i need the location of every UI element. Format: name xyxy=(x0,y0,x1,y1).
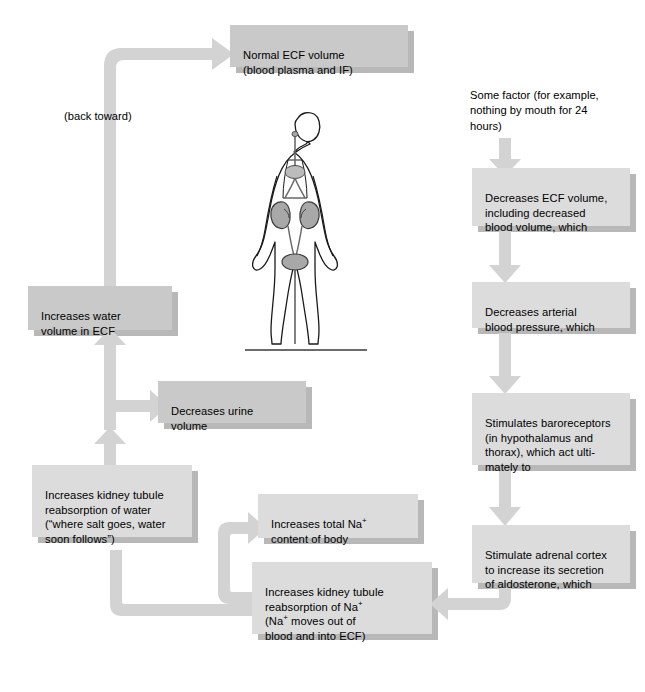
node-increases-water-reabsorption: Increases kidney tubule reabsorption of … xyxy=(32,465,192,537)
node-increases-water-reabsorption-label: Increases kidney tubule reabsorption of … xyxy=(45,489,166,544)
annotation-back-toward: (back toward) xyxy=(64,93,132,124)
human-body-figure xyxy=(245,113,367,350)
total-na-superscript-plus: + xyxy=(362,517,367,526)
node-decreases-arterial-bp: Decreases arterial blood pressure, which xyxy=(472,282,630,328)
node-some-factor: Some factor (for example, nothing by mou… xyxy=(470,72,638,134)
node-decreases-arterial-bp-label: Decreases arterial blood pressure, which xyxy=(485,306,595,332)
node-normal-ecf-volume: Normal ECF volume (blood plasma and IF) xyxy=(230,25,408,67)
connector-water-volume-to-normal-ecf xyxy=(104,38,234,290)
node-increases-total-na: Increases total Na+ content of body xyxy=(258,494,418,538)
node-some-factor-label: Some factor (for example, nothing by mou… xyxy=(470,89,599,132)
annotation-back-toward-label: (back toward) xyxy=(64,110,132,122)
node-increases-na-reabsorption-label: Increases kidney tubule reabsorption of … xyxy=(265,586,384,641)
node-increases-water-volume-ecf: Increases water volume in ECF xyxy=(28,286,172,330)
node-stimulates-baroreceptors-label: Stimulates baroreceptors (in hypothalamu… xyxy=(485,417,611,472)
connector-na-to-water-reabsorption xyxy=(110,550,256,616)
node-increases-water-volume-ecf-label: Increases water volume in ECF xyxy=(41,310,121,336)
node-stimulate-adrenal-cortex: Stimulate adrenal cortex to increase its… xyxy=(472,525,630,583)
na-superscript-plus-1: + xyxy=(358,599,363,608)
connector-adrenal-to-na-reabsorption xyxy=(430,588,511,620)
node-normal-ecf-volume-label: Normal ECF volume (blood plasma and IF) xyxy=(243,49,353,75)
connector-baroreceptors-to-adrenal xyxy=(489,470,521,526)
node-stimulates-baroreceptors: Stimulates baroreceptors (in hypothalamu… xyxy=(472,393,630,465)
node-decreases-ecf-volume: Decreases ECF volume, including decrease… xyxy=(472,168,630,226)
connector-ecf-to-bp xyxy=(489,231,521,283)
node-increases-na-reabsorption: Increases kidney tubule reabsorption of … xyxy=(252,562,432,634)
flowchart-diagram: .conn { fill: #d3d3d3; } .shadow { fill:… xyxy=(0,0,645,692)
node-stimulate-adrenal-cortex-label: Stimulate adrenal cortex to increase its… xyxy=(485,549,607,590)
connector-bp-to-baroreceptors xyxy=(489,333,521,394)
node-decreases-urine-volume: Decreases urine volume xyxy=(158,381,306,423)
